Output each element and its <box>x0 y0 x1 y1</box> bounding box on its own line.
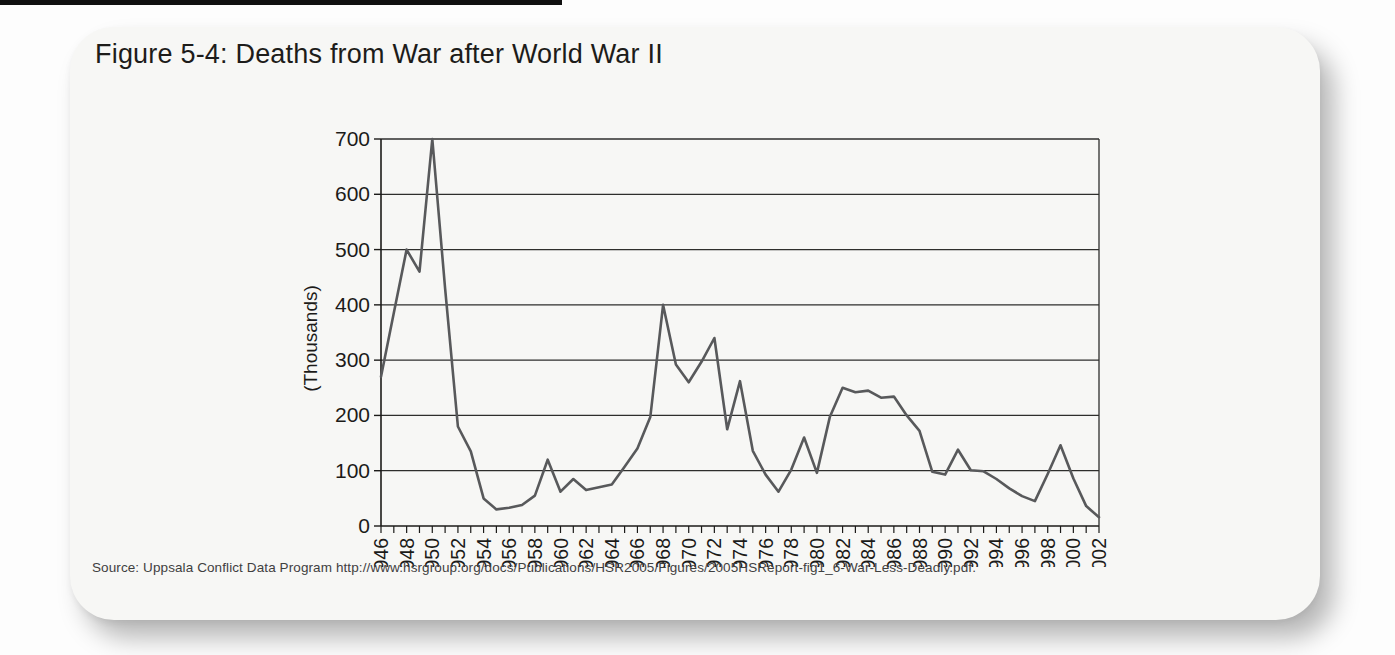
y-tick-label: 600 <box>335 182 370 205</box>
scan-edge-strip <box>0 0 562 5</box>
page: Figure 5-4: Deaths from War after World … <box>0 0 1395 655</box>
x-tick-label: 2000 <box>1062 538 1084 567</box>
y-tick-label: 0 <box>358 514 370 537</box>
war-deaths-series-line <box>381 139 1099 517</box>
figure-card: Figure 5-4: Deaths from War after World … <box>70 27 1320 620</box>
y-tick-label: 400 <box>335 293 370 316</box>
x-tick-label: 1998 <box>1037 538 1059 567</box>
war-deaths-line-chart: 0100200300400500600700194619481950195219… <box>292 92 1142 567</box>
x-tick-label: 1994 <box>985 538 1007 567</box>
chart-svg: 0100200300400500600700194619481950195219… <box>292 92 1142 567</box>
y-tick-label: 700 <box>335 127 370 150</box>
y-tick-label: 200 <box>335 403 370 426</box>
x-tick-label: 1996 <box>1011 538 1033 567</box>
y-tick-label: 500 <box>335 238 370 261</box>
x-tick-label: 2002 <box>1088 538 1110 567</box>
y-tick-label: 100 <box>335 459 370 482</box>
y-tick-label: 300 <box>335 348 370 371</box>
source-note: Source: Uppsala Conflict Data Program ht… <box>92 560 976 575</box>
y-axis-title: (Thousands) <box>300 285 321 392</box>
figure-title: Figure 5-4: Deaths from War after World … <box>95 39 663 70</box>
